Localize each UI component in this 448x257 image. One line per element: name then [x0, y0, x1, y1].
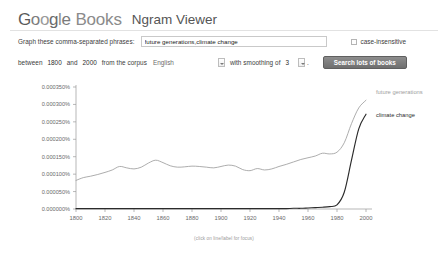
case-insensitive-label: case-insensitive	[361, 38, 406, 45]
site-logo[interactable]: G o o g l e Books Ngram Viewer	[18, 11, 448, 28]
ngram-chart[interactable]: 0.000000%0.000050%0.000100%0.000150%0.00…	[0, 77, 448, 245]
options-row: between 1800 and 2000 from the corpus En…	[0, 52, 448, 73]
x-tick-label: 1860	[157, 215, 170, 221]
x-tick-label: 1800	[70, 215, 83, 221]
start-year-value[interactable]: 1800	[48, 59, 62, 66]
series-line[interactable]	[76, 114, 366, 208]
search-button-label: Search lots of books	[334, 59, 396, 66]
chart-caption: (click on line/label for focus)	[0, 236, 448, 241]
books-wordmark: Books	[75, 11, 121, 28]
y-axis-tick-labels: 0.000000%0.000050%0.000100%0.000150%0.00…	[42, 84, 70, 212]
end-year-value[interactable]: 2000	[83, 59, 97, 66]
smoothing-value[interactable]: 3	[285, 59, 289, 66]
series-lines[interactable]	[76, 100, 366, 208]
series-line[interactable]	[76, 100, 366, 180]
series-inline-labels[interactable]: future generationsclimate change	[376, 89, 423, 118]
x-tick-label: 1840	[128, 215, 141, 221]
x-tick-label: 1880	[186, 215, 199, 221]
between-label: between	[18, 59, 43, 66]
corpus-dropdown-icon[interactable]	[218, 58, 225, 67]
y-tick-label: 0.000150%	[42, 154, 70, 160]
trailing-period: .	[307, 59, 309, 66]
smoothing-dropdown-icon[interactable]	[298, 58, 305, 67]
phrases-row: Graph these comma-separated phrases: cas…	[0, 31, 448, 52]
page-header: G o o g l e Books Ngram Viewer	[0, 0, 448, 24]
phrases-input[interactable]	[141, 36, 327, 47]
x-axis-tick-labels: 1800182018401860188019001920194019601980…	[70, 215, 373, 221]
x-tick-label: 1820	[99, 215, 112, 221]
x-tick-label: 1900	[215, 215, 228, 221]
y-tick-label: 0.000350%	[42, 84, 70, 90]
x-tick-label: 1980	[331, 215, 344, 221]
x-tick-label: 1940	[273, 215, 286, 221]
x-tick-label: 1960	[302, 215, 315, 221]
y-tick-label: 0.000000%	[42, 206, 70, 212]
axis-lines	[73, 85, 372, 212]
series-label[interactable]: future generations	[376, 89, 423, 95]
smoothing-label: with smoothing of	[230, 59, 281, 66]
y-tick-label: 0.000300%	[42, 101, 70, 107]
google-wordmark: G o o g l e	[18, 11, 70, 28]
y-tick-label: 0.000200%	[42, 136, 70, 142]
y-tick-label: 0.000050%	[42, 189, 70, 195]
y-tick-label: 0.000250%	[42, 119, 70, 125]
logo-letter: o	[40, 11, 49, 28]
product-title: Ngram Viewer	[132, 13, 217, 27]
x-tick-label: 2000	[360, 215, 373, 221]
corpus-value[interactable]: English	[153, 59, 174, 66]
x-tick-label: 1920	[244, 215, 257, 221]
case-insensitive-checkbox[interactable]	[351, 39, 357, 45]
and-label: and	[67, 59, 78, 66]
chart-canvas[interactable]: 0.000000%0.000050%0.000100%0.000150%0.00…	[0, 77, 448, 245]
search-button[interactable]: Search lots of books	[323, 56, 407, 69]
logo-letter: G	[18, 11, 31, 28]
series-label[interactable]: climate change	[376, 112, 415, 118]
corpus-label: from the corpus	[102, 59, 147, 66]
y-tick-label: 0.000100%	[42, 171, 70, 177]
logo-letter: o	[31, 11, 40, 28]
phrases-label: Graph these comma-separated phrases:	[18, 38, 135, 45]
logo-letter: e	[61, 11, 70, 28]
logo-letter: g	[49, 11, 58, 28]
